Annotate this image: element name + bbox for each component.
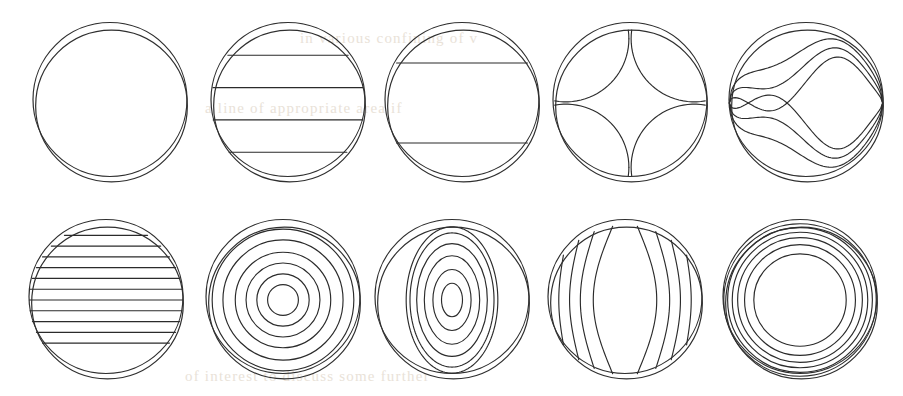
- contour-figure-canvas: [0, 0, 903, 396]
- contour-panel-2: [211, 23, 365, 182]
- contour-panel-1: [33, 23, 187, 182]
- contour-panel-3: [385, 23, 539, 182]
- contour-panel-8: [375, 220, 529, 379]
- contour-panel-9: [548, 220, 702, 379]
- contour-panel-4: [553, 23, 707, 182]
- figure-root: in various confining of v a line of appr…: [0, 0, 903, 396]
- contour-panel-5: [729, 23, 883, 182]
- contour-panel-10: [723, 220, 877, 379]
- contour-panel-7: [206, 220, 360, 379]
- contour-panel-6: [29, 220, 183, 379]
